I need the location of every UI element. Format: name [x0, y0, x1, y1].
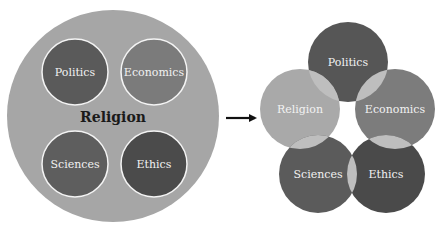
economics-label: Economics: [124, 66, 185, 79]
religion-diagram: PoliticsEconomicsSciencesEthicsReligion …: [0, 0, 441, 230]
left-diagram: PoliticsEconomicsSciencesEthicsReligion: [7, 10, 219, 222]
ethics-label: Ethics: [137, 158, 172, 171]
religion-ring-label: Religion: [277, 103, 323, 116]
ethics-ring-label: Ethics: [369, 168, 404, 181]
politics-ring-label: Politics: [328, 56, 369, 69]
sciences-label: Sciences: [50, 158, 99, 171]
sciences-ring-label: Sciences: [293, 168, 342, 181]
right-diagram: PoliticsReligionEconomicsSciencesEthics: [260, 22, 435, 213]
religion-label: Religion: [80, 109, 146, 125]
economics-ring-label: Economics: [365, 103, 426, 116]
politics-label: Politics: [55, 66, 96, 79]
